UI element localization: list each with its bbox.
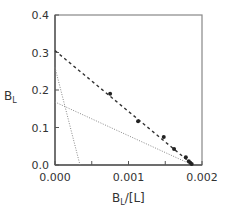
y-tick-label: 0.1	[32, 122, 50, 135]
data-point	[108, 92, 112, 96]
y-tick-label: 0.2	[32, 84, 50, 97]
data-point	[190, 162, 194, 166]
plot-border	[55, 15, 202, 165]
data-point	[184, 155, 188, 159]
data-point	[162, 135, 166, 139]
component-line	[55, 102, 192, 165]
chart-canvas: 0.00.10.20.30.4 0.0000.0010.002 BL BL/[L…	[0, 0, 230, 224]
y-tick-label: 0.3	[32, 47, 50, 60]
y-tick-label: 0.4	[32, 9, 50, 22]
data-point	[172, 147, 176, 151]
plot-frame	[55, 15, 202, 165]
series-layer	[55, 51, 194, 166]
y-axis-label: BL	[4, 89, 17, 105]
x-tick-label: 0.001	[113, 171, 145, 184]
x-tick-label: 0.000	[39, 171, 71, 184]
x-tick-label: 0.002	[186, 171, 218, 184]
data-point	[136, 119, 140, 123]
component-line	[55, 68, 80, 166]
scatchard-plot: 0.00.10.20.30.4 0.0000.0010.002 BL BL/[L…	[0, 0, 230, 224]
x-axis-label: BL/[L]	[112, 191, 145, 207]
